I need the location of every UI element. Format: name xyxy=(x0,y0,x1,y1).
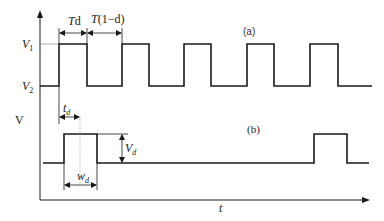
y-axis xyxy=(37,10,43,200)
waveform-a xyxy=(40,44,372,86)
x-axis xyxy=(40,197,370,203)
waveform-a-label: (a) xyxy=(243,26,255,37)
vd-label: Vd xyxy=(125,141,137,157)
v1-label: V1 xyxy=(22,37,33,53)
td-label: Td xyxy=(68,14,81,28)
pulse-diagram: Td T(1−d) V1 V2 V t (a) (b) td Vd wd xyxy=(0,0,384,221)
td-delay-label: td xyxy=(63,101,71,117)
td-label-text: d xyxy=(75,14,81,28)
waveform-b xyxy=(43,134,369,163)
wd-label: wd xyxy=(77,169,90,185)
x-axis-label: t xyxy=(219,201,223,215)
v2-label: V2 xyxy=(22,79,33,95)
y-axis-label: V xyxy=(15,113,24,127)
t1d-label: T(1−d) xyxy=(91,12,124,26)
waveform-b-label: (b) xyxy=(247,123,260,136)
